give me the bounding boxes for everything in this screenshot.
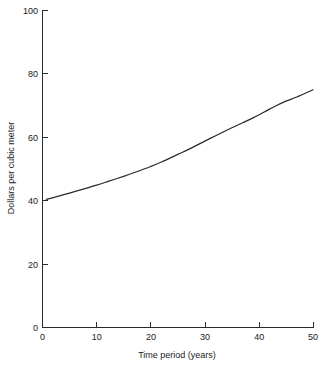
x-axis-title: Time period (years) (138, 350, 216, 360)
chart-figure: 100 80 60 40 20 0 0 10 20 30 40 50 Time … (0, 0, 328, 365)
y-tick-label-80: 80 (28, 69, 38, 79)
x-tick-label-40: 40 (254, 332, 264, 342)
y-tick-label-20: 20 (28, 260, 38, 270)
y-tick-label-0: 0 (33, 323, 38, 333)
x-tick-label-50: 50 (308, 332, 318, 342)
y-axis-title: Dollars per cubic meter (6, 122, 16, 215)
y-axis-tick-labels: 100 80 60 40 20 0 (23, 6, 38, 334)
x-tick-label-0: 0 (40, 332, 45, 342)
y-tick-label-60: 60 (28, 133, 38, 143)
y-tick-label-40: 40 (28, 196, 38, 206)
line-chart: 100 80 60 40 20 0 0 10 20 30 40 50 Time … (0, 0, 328, 365)
y-axis-ticks (43, 11, 49, 328)
x-tick-label-20: 20 (146, 332, 156, 342)
x-tick-label-10: 10 (92, 332, 102, 342)
data-series-line (46, 90, 313, 200)
y-tick-label-100: 100 (23, 6, 38, 16)
x-axis-tick-labels: 0 10 20 30 40 50 (40, 332, 318, 342)
x-axis-ticks (43, 322, 314, 328)
x-tick-label-30: 30 (200, 332, 210, 342)
